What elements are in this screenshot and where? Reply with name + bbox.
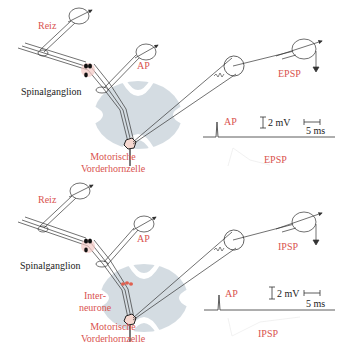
spinal-ganglion-label: Spinalganglion (20, 260, 81, 271)
voltage-scale-label: 2 mV (268, 117, 291, 128)
stimulus-label: Reiz (38, 194, 56, 205)
voltage-scale-label: 2 mV (277, 288, 300, 299)
response-label: EPSP (264, 154, 287, 165)
recording-electrode-label: EPSP (278, 68, 301, 79)
reflex-arc-diagram (0, 0, 348, 363)
spinal-ganglion-label: Spinalganglion (21, 86, 82, 97)
ganglion-cells (81, 238, 95, 253)
motor-neuron-label-line2: Vorderhornzelle (58, 333, 168, 344)
recording-electrode-label: IPSP (278, 241, 298, 252)
motor-neuron-label-line1: Motorische (58, 321, 168, 332)
trace-ap-label: AP (224, 116, 237, 127)
interneuron-label-line2: neurone (70, 302, 120, 313)
motor-neuron-label-line1: Motorische (58, 151, 168, 162)
stimulus-label: Reiz (38, 20, 56, 31)
ap-electrode-label: AP (137, 233, 150, 244)
stimulus-electrode (38, 8, 92, 56)
time-scale-label: 5 ms (306, 298, 325, 309)
time-scale-label: 5 ms (306, 125, 325, 136)
motor-neuron-label-line2: Vorderhornzelle (58, 163, 168, 174)
interneuron-label-line1: Inter- (70, 290, 120, 301)
trace-ap-label: AP (225, 288, 238, 299)
ap-electrode-label: AP (137, 60, 150, 71)
ganglion-cells (81, 63, 95, 77)
response-label: IPSP (258, 328, 278, 339)
